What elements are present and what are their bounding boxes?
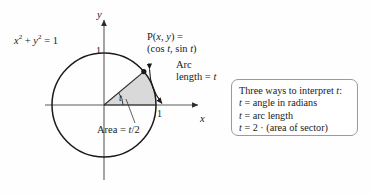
arc-length-label-line1: Arc: [176, 59, 216, 71]
figure-container: x2 + y2 = 1 y x 1 1 P(x, y) = (cos t, si…: [0, 0, 371, 195]
x-axis-tick-label: 1: [157, 108, 162, 120]
arc-length-label-line2: length = t: [176, 71, 216, 83]
angle-t-label: t: [119, 92, 122, 104]
y-axis-label: y: [97, 9, 102, 21]
y-axis-tick-label: 1: [96, 45, 101, 57]
point-p-label: P(x, y) = (cos t, sin t): [147, 31, 197, 56]
point-p-label-line2: (cos t, sin t): [147, 43, 197, 55]
interpretation-list: Three ways to interpret t: t = angle in …: [232, 80, 357, 134]
area-label: Area = t/2: [97, 124, 140, 136]
x-axis-label: x: [200, 113, 205, 125]
circle-equation-label: x2 + y2 = 1: [14, 33, 58, 47]
arc-length-label: Arc length = t: [176, 59, 216, 84]
point-p-marker: [141, 69, 146, 74]
interpretation-callout-box: Three ways to interpret t: t = angle in …: [231, 79, 358, 136]
list-item: t = 2 · (area of sector): [239, 122, 357, 134]
list-item: Three ways to interpret t:: [239, 85, 357, 97]
list-item: t = arc length: [239, 110, 357, 122]
point-p-label-line1: P(x, y) =: [147, 31, 197, 43]
list-item: t = angle in radians: [239, 97, 357, 109]
